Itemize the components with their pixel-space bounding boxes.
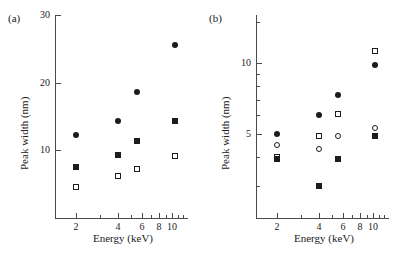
panel-a-y-ticklabel-30: 30 — [24, 10, 50, 20]
panel-b-plot-area: 510246810 — [201, 0, 402, 261]
panel-a-y-ticklabel-20: 20 — [24, 78, 50, 88]
panel-b-datapoint-filled-circle — [316, 112, 322, 118]
panel-a-x-tick-2 — [76, 213, 77, 218]
panel-a-x-axis-line — [55, 218, 188, 219]
panel-b-datapoint-open-square — [372, 48, 378, 54]
panel-b-y-axis-line — [256, 15, 257, 218]
panel-a-x-ticklabel-10: 10 — [159, 222, 185, 232]
panel-b-x-tick-4 — [319, 213, 320, 218]
panel-a-x-tick-8 — [159, 213, 160, 218]
panel-a-y-axis-line — [55, 15, 56, 218]
panel-a-y-tick-10 — [56, 150, 61, 151]
panel-a: (a) Peak width (nm) Energy (keV) 1020302… — [0, 0, 201, 261]
panel-b-y-ticklabel-10: 10 — [225, 58, 251, 68]
panel-a-x-minor-tick-3 — [100, 215, 101, 218]
panel-b-x-minor-tick-12 — [384, 215, 385, 218]
panel-a-x-tick-6 — [142, 213, 143, 218]
panel-b-y-tick-10 — [257, 63, 262, 64]
panel-b-datapoint-open-circle — [372, 125, 378, 131]
panel-b-datapoint-open-circle — [335, 133, 341, 139]
panel-a-y-ticklabel-10: 10 — [24, 145, 50, 155]
panel-b: (b) Peak width (nm) Energy (keV) 5102468… — [201, 0, 402, 261]
panel-b-y-minor-tick-8 — [257, 86, 260, 87]
panel-a-datapoint-filled-circle — [73, 132, 79, 138]
panel-b-y-minor-tick-4 — [257, 157, 260, 158]
panel-a-x-ticklabel-4: 4 — [105, 222, 131, 232]
panel-a-x-minor-tick-5 — [131, 215, 132, 218]
panel-a-x-tick-10 — [172, 213, 173, 218]
panel-a-datapoint-filled-circle — [172, 42, 178, 48]
panel-a-y-tick-30 — [56, 15, 61, 16]
panel-a-y-tick-20 — [56, 83, 61, 84]
panel-a-x-minor-tick-11 — [178, 215, 179, 218]
panel-a-x-ticklabel-2: 2 — [63, 222, 89, 232]
panel-b-datapoint-filled-circle — [372, 62, 378, 68]
panel-b-x-tick-6 — [343, 213, 344, 218]
panel-b-x-axis-line — [256, 218, 389, 219]
panel-a-datapoint-filled-square — [73, 164, 79, 170]
panel-b-x-minor-tick-3 — [301, 215, 302, 218]
panel-a-datapoint-open-square — [134, 166, 140, 172]
panel-b-x-ticklabel-10: 10 — [360, 222, 386, 232]
panel-b-datapoint-filled-square — [372, 133, 378, 139]
panel-b-y-minor-tick-6 — [257, 115, 260, 116]
panel-b-y-ticklabel-5: 5 — [225, 129, 251, 139]
panel-a-datapoint-filled-circle — [134, 89, 140, 95]
panel-a-x-minor-tick-12 — [183, 215, 184, 218]
panel-b-x-minor-tick-9 — [367, 215, 368, 218]
panel-b-datapoint-open-circle — [316, 146, 322, 152]
panel-b-x-minor-tick-5 — [332, 215, 333, 218]
panel-b-datapoint-open-circle — [274, 142, 280, 148]
panel-b-datapoint-filled-circle — [335, 92, 341, 98]
panel-a-datapoint-open-square — [172, 153, 178, 159]
panel-b-x-tick-10 — [373, 213, 374, 218]
panel-b-x-ticklabel-4: 4 — [306, 222, 332, 232]
panel-a-datapoint-filled-circle — [115, 118, 121, 124]
panel-a-x-minor-tick-9 — [166, 215, 167, 218]
panel-b-datapoint-filled-square — [274, 156, 280, 162]
panel-b-datapoint-filled-square — [335, 156, 341, 162]
panel-b-y-minor-tick-7 — [257, 100, 260, 101]
panel-a-datapoint-filled-square — [134, 138, 140, 144]
panel-a-x-tick-4 — [118, 213, 119, 218]
figure-scatter-panels: (a) Peak width (nm) Energy (keV) 1020302… — [0, 0, 402, 261]
panel-b-y-minor-tick-3 — [257, 186, 260, 187]
panel-a-datapoint-filled-square — [115, 152, 121, 158]
panel-b-x-minor-tick-7 — [352, 215, 353, 218]
panel-a-datapoint-filled-square — [172, 118, 178, 124]
panel-b-datapoint-open-square — [335, 111, 341, 117]
panel-a-x-minor-tick-7 — [151, 215, 152, 218]
panel-b-x-ticklabel-2: 2 — [264, 222, 290, 232]
panel-a-datapoint-open-square — [115, 173, 121, 179]
panel-b-y-minor-tick-15 — [257, 22, 260, 23]
panel-a-plot-area: 102030246810 — [0, 0, 201, 261]
panel-b-x-tick-8 — [360, 213, 361, 218]
panel-b-datapoint-open-square — [316, 133, 322, 139]
panel-b-datapoint-filled-circle — [274, 131, 280, 137]
panel-b-y-tick-5 — [257, 134, 262, 135]
panel-a-datapoint-open-square — [73, 184, 79, 190]
panel-b-x-tick-2 — [277, 213, 278, 218]
panel-b-y-minor-tick-9 — [257, 74, 260, 75]
panel-b-x-minor-tick-11 — [379, 215, 380, 218]
panel-b-datapoint-filled-square — [316, 183, 322, 189]
